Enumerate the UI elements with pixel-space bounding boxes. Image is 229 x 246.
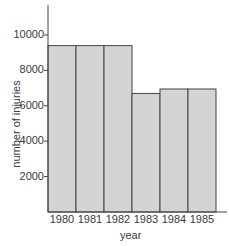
bar-1982 xyxy=(104,46,132,212)
x-tick-label: 1983 xyxy=(132,214,160,225)
x-tick-label: 1984 xyxy=(160,214,188,225)
bar-1981 xyxy=(76,46,104,212)
x-tick-label: 1981 xyxy=(76,214,104,225)
bar-1980 xyxy=(48,46,76,212)
x-tick-label: 1982 xyxy=(104,214,132,225)
bar-1984 xyxy=(160,89,188,212)
x-tick-label: 1985 xyxy=(188,214,216,225)
bar-1985 xyxy=(188,89,216,212)
bar-1983 xyxy=(132,93,160,212)
y-axis-label: number of injuries xyxy=(10,74,22,174)
bar-chart: 200040006000800010000 198019811982198319… xyxy=(0,0,229,246)
x-tick-label: 1980 xyxy=(48,214,76,225)
y-tick-label: 10000 xyxy=(4,29,44,40)
x-axis-label: year xyxy=(120,229,141,241)
